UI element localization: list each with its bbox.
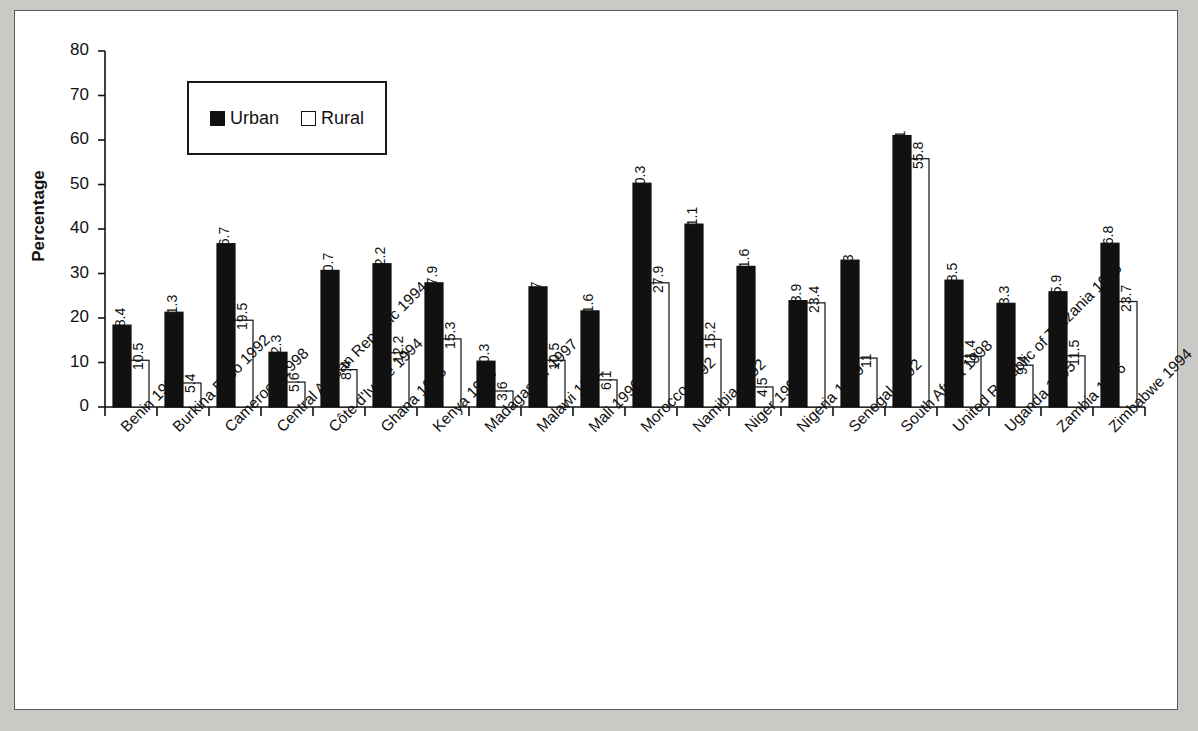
urban-swatch-icon [210, 111, 225, 126]
bar [113, 325, 131, 407]
bar-value-label: 33 [840, 255, 856, 271]
bar-value-label: 23.9 [788, 283, 804, 310]
bar [633, 183, 651, 407]
bar-value-label: 15.2 [702, 322, 718, 349]
bar-value-label: 41.1 [684, 207, 700, 234]
bar [651, 283, 669, 407]
bar-value-label: 23.4 [806, 286, 822, 313]
bar-value-label: 10.5 [130, 343, 146, 370]
bar-value-label: 61 [892, 130, 908, 146]
bar [1119, 302, 1137, 407]
legend-item-urban: Urban [210, 108, 279, 129]
legend-label-rural: Rural [321, 108, 364, 129]
bar-chart: Percentage 01020304050607080 18.410.521.… [15, 11, 1179, 711]
legend: Urban Rural [187, 81, 387, 155]
bar-value-label: 23.3 [996, 286, 1012, 313]
bar-value-label: 30.7 [320, 253, 336, 280]
figure-frame: Percentage 01020304050607080 18.410.521.… [14, 10, 1178, 710]
bar-value-label: 12.3 [268, 335, 284, 362]
bar-value-label: 36.8 [1100, 226, 1116, 253]
legend-item-rural: Rural [301, 108, 364, 129]
bar-value-label: 31.6 [736, 249, 752, 276]
legend-label-urban: Urban [230, 108, 279, 129]
bar-value-label: 19.5 [234, 303, 250, 330]
bar-value-label: 5.4 [182, 374, 198, 393]
bar-value-label: 25.9 [1048, 274, 1064, 301]
bar-value-label: 21.6 [580, 294, 596, 321]
bar-value-label: 21.3 [164, 295, 180, 322]
bar [807, 303, 825, 407]
bar-value-label: 32.2 [372, 246, 388, 273]
bar-value-label: 27.9 [650, 266, 666, 293]
bar-value-label: 36.7 [216, 226, 232, 253]
bar-value-label: 15.3 [442, 322, 458, 349]
rural-swatch-icon [301, 111, 316, 126]
bar-value-label: 50.3 [632, 166, 648, 193]
bar-value-label: 18.4 [112, 308, 128, 335]
bar-value-label: 23.7 [1118, 284, 1134, 311]
bar-value-label: 28.5 [944, 263, 960, 290]
bar-value-label: 27 [528, 281, 544, 297]
bar-value-label: 55.8 [910, 141, 926, 168]
